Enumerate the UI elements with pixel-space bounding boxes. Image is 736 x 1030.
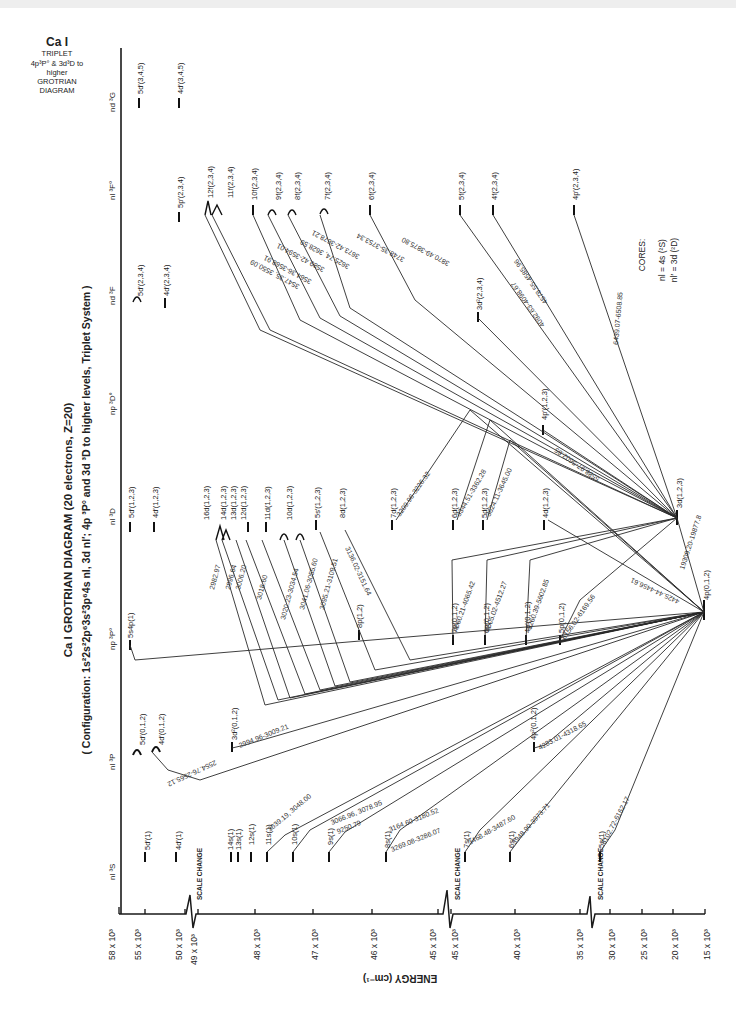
wavelength-label: 3018.60 — [255, 574, 268, 600]
wavelength-label: 3748.35-3753.34 — [355, 232, 405, 263]
column-labels: nl ³S nl ³P np ³P° nl ³D np ³D° nd ³F nl… — [108, 92, 117, 880]
wavelength-label: 3870.49-3875.80 — [400, 236, 450, 267]
tick-label: 40 x 10³ — [512, 929, 522, 960]
wavelength-label: 4283.01-4318.65 — [537, 720, 587, 751]
level-label: 4d(1,2,3) — [541, 487, 550, 518]
wavelength-label: 3269.08-3286.07 — [390, 827, 442, 853]
level-label: 4d′(2,3,4) — [162, 264, 171, 296]
level-label: 8d(1,2,3) — [338, 487, 347, 518]
header-line: 4p³P° & 3d³D to — [31, 59, 84, 68]
tick-label: 20 x 10³ — [670, 929, 680, 960]
level-label: 5d′(2,3,4) — [136, 264, 145, 296]
wavelength-label: 4092.63-4098.67 — [510, 281, 546, 328]
wavelength-label: 3136.02-3151.64 — [344, 545, 373, 596]
header-line: higher — [47, 68, 68, 77]
level-label: 3d²(2,3,4) — [475, 277, 484, 310]
tick-label: 48 x 10³ — [252, 929, 262, 960]
axis-title: ENERGY (cm⁻¹) — [363, 973, 437, 984]
wavelength-label: 3020.23-3034.54 — [279, 567, 299, 620]
tick-label: 55 x 10³ — [133, 929, 143, 960]
level-label: 16d(1,2,3) — [202, 485, 211, 520]
wavelength-label: 6439.07-6508.85 — [612, 292, 624, 345]
level-label: 4d′(1,2,3) — [151, 486, 160, 518]
level-label: 12f(2,3,4) — [206, 165, 215, 198]
tick-label: 49 x 10³ — [189, 934, 199, 965]
level-label: 11f(2,3,4) — [226, 166, 235, 198]
scale-change-label: SCALE CHANGE — [454, 847, 461, 900]
wavelength-label: 3209.96-3226.32 — [395, 470, 431, 517]
diagram-title: Ca I GROTRIAN DIAGRAM (20 electrons, Z=2… — [62, 403, 74, 658]
wavelength-label: 3948.90-3973.71 — [511, 802, 552, 846]
element-title: Ca I — [46, 35, 68, 49]
energy-levels: 5d′(1) 4d′(1) 14s(1) 13s(1) 12s(1) 11s(1… — [126, 62, 711, 862]
cores-line: nl′ = 3d (²D) — [669, 238, 679, 283]
level-label: 12s(1) — [247, 823, 256, 845]
level-label: 8f(2,3,4) — [293, 172, 302, 200]
level-label: 5f(2,3,4) — [457, 172, 466, 200]
column-label-nl3Fo: nl ³F° — [108, 181, 117, 200]
column-label-np3Po: np ³P° — [108, 628, 117, 650]
level-label: 9s(1) — [326, 827, 335, 845]
level-label: 4d′(1) — [174, 831, 183, 850]
level-label: 4f(2,3,4) — [490, 172, 499, 200]
column-label-nd3F: nd ³F — [108, 286, 117, 305]
level-label: 5d′(1,2,3) — [127, 486, 136, 518]
tick-label: 30 x 10³ — [607, 929, 617, 960]
level-label: 5p′(2,3,4) — [176, 176, 185, 208]
tick-label: 46 x 10³ — [369, 929, 379, 960]
cores-title: CORES: — [637, 239, 647, 272]
tick-label: 50 x 10³ — [174, 929, 184, 960]
grotrian-diagram: Ca I TRIPLET 4p³P° & 3d³D to higher GROT… — [0, 0, 736, 1030]
level-label: 13s(1) — [234, 828, 243, 850]
column-label-nd3G: nd ³G — [108, 92, 117, 112]
level-label: 6f(2,3,4) — [367, 172, 376, 200]
tick-label: 35 x 10³ — [575, 929, 585, 960]
wavelength-label: 19309.20-19877.8 — [678, 514, 702, 570]
scale-change-label: SCALE CHANGE — [196, 847, 203, 900]
tick-label: 58 x 10³ — [107, 929, 117, 960]
level-label: 5d′(1) — [143, 831, 152, 850]
cores-line: nl = 4s (²S) — [657, 239, 667, 281]
tick-label: 45 x 10³ — [428, 929, 438, 960]
level-label: 10s(1) — [290, 823, 299, 845]
wavelength-label: 4425.44-4456.61 — [629, 577, 680, 606]
wavelength-label: 2982.97 — [208, 564, 221, 590]
level-label: 3d²(0,1,2) — [230, 707, 239, 740]
wavelength-label: 6102.72-6162.17 — [600, 795, 631, 845]
level-label: 10f(2,3,4) — [250, 167, 259, 200]
level-label: 10d(1,2,3) — [285, 485, 294, 520]
energy-axis: 58 x 10³ 55 x 10³ 50 x 10³ 49 x 10³ 48 x… — [107, 847, 712, 984]
level-label: 4d′(0,1,2) — [157, 713, 166, 745]
level-label: 4p′(1,2,3) — [540, 388, 549, 420]
level-label: 4p(0,1,2) — [702, 569, 711, 600]
level-label: 5s′(1,2,3) — [313, 486, 322, 518]
column-label-nl3P: nl ³P — [108, 754, 117, 770]
header-line: TRIPLET — [42, 49, 73, 58]
column-label-nl3D: nl ³D — [108, 508, 117, 525]
tick-label: 47 x 10³ — [310, 929, 320, 960]
wavelength-label: 3095.21-3109.51 — [318, 557, 338, 610]
diagram-subtitle: ( Configuration: 1s²2s²2p⁶3s²3p⁶4s nl, 3… — [80, 285, 92, 754]
level-label: 3d(1,2,3) — [675, 477, 684, 508]
tick-label: 15 x 10³ — [702, 929, 712, 960]
header-line: GROTRIAN — [37, 77, 77, 86]
cores-legend: CORES: nl = 4s (²S) nl′ = 3d (²D) — [637, 238, 679, 283]
level-label: 4p′(2,3,4) — [571, 168, 580, 200]
column-label-np3Do: np ³D° — [108, 392, 117, 415]
header-line: DIAGRAM — [39, 86, 74, 95]
column-label-nl3S: nl ³S — [108, 864, 117, 880]
level-label: 7f(2,3,4) — [323, 172, 332, 200]
level-label: 5d′(0,1,2) — [138, 713, 147, 745]
level-label: 11d(1,2,3) — [263, 486, 272, 520]
tick-label: 25 x 10³ — [639, 929, 649, 960]
tick-label: 45 x 10³ — [450, 929, 460, 960]
level-label: 14d(1,2,3) — [219, 485, 228, 520]
level-label: 5s4p(1) — [126, 612, 135, 638]
level-label: 5d′(3,4,5) — [136, 62, 145, 94]
wavelength-label: 2554.76-2565.12 — [167, 759, 218, 788]
level-label: 4p²(0,1,2) — [529, 707, 538, 740]
wavelength-label: 2994.96-3009.21 — [238, 723, 290, 749]
level-label: 12d(1,2,3) — [239, 485, 248, 520]
level-label: 13d(1,2,3) — [229, 485, 238, 520]
level-label: 9f(2,3,4) — [274, 172, 283, 200]
